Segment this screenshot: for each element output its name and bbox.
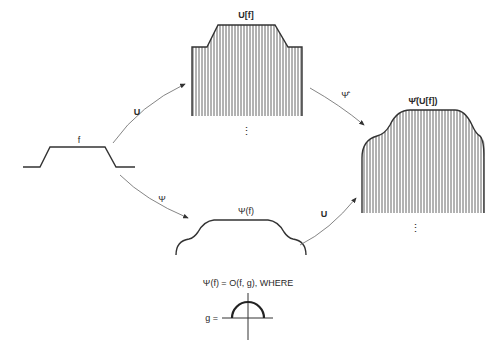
edge-psi-f-to-psi-hat: U	[300, 198, 356, 245]
g-label: g =	[205, 313, 218, 323]
label-psi-f: Ψ(f)	[238, 206, 254, 216]
edge-u-f-to-psi-hat: Ψ̂	[310, 88, 364, 125]
formula-text: Ψ(f) = O(f, g), WHERE	[203, 278, 293, 288]
g-kernel-icon	[222, 293, 273, 340]
hatched-fill	[360, 105, 486, 215]
psi-f-outline	[176, 220, 306, 255]
label-f: f	[78, 135, 81, 145]
node-f: f	[23, 135, 135, 167]
hatched-fill	[190, 20, 305, 117]
edge-f-to-psi-f: Ψ	[120, 175, 188, 218]
edge-f-to-u-f: U	[113, 84, 185, 143]
label-edge-u: U	[134, 107, 141, 117]
label-edge-psi-hat: Ψ̂	[341, 90, 351, 100]
label-edge-u-2: U	[321, 209, 328, 219]
label-edge-psi: Ψ	[158, 194, 166, 204]
node-psi-f: Ψ(f)	[176, 206, 306, 255]
diagram-canvas: f U[f] ⋮ Ψ̂(U[f]) ⋮ Ψ(f) U Ψ Ψ̂ U Ψ(f) =…	[0, 0, 486, 359]
node-u-f: U[f] ⋮	[190, 10, 305, 137]
ellipsis-psi-hat: ⋮	[410, 222, 421, 234]
label-u-f: U[f]	[238, 10, 254, 20]
label-psi-hat-u-f: Ψ̂(U[f])	[409, 96, 438, 106]
formula-block: Ψ(f) = O(f, g), WHERE g =	[203, 278, 293, 340]
trapezoid-pulse-f	[23, 147, 135, 167]
ellipsis-u-f: ⋮	[241, 125, 252, 137]
node-psi-hat-u-f: Ψ̂(U[f]) ⋮	[360, 96, 486, 234]
